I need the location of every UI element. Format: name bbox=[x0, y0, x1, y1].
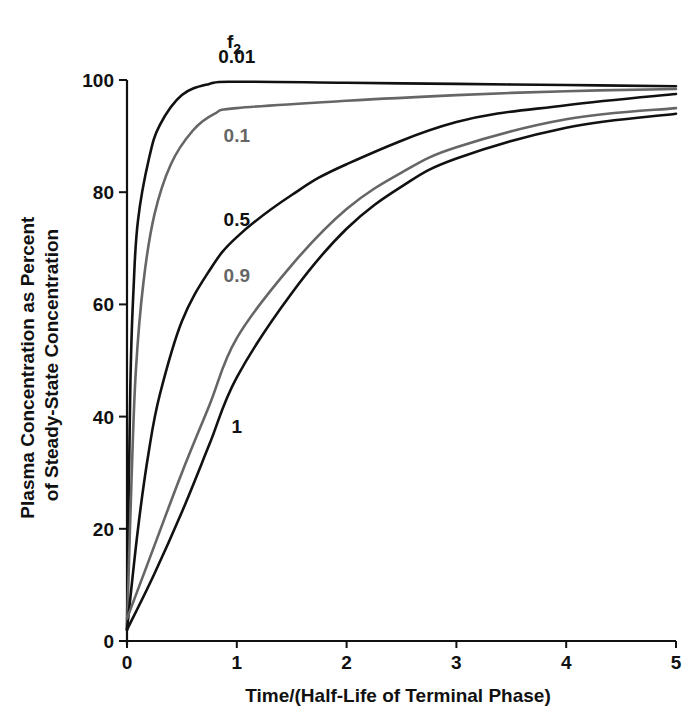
series-line-f2-1 bbox=[127, 114, 676, 630]
x-axis-title: Time/(Half-Life of Terminal Phase) bbox=[245, 685, 550, 706]
series-line-f2-0_01 bbox=[127, 82, 676, 630]
series-line-f2-0_1 bbox=[127, 89, 676, 630]
series-line-f2-0_5 bbox=[127, 94, 676, 630]
series-label-f2-0_1: 0.1 bbox=[224, 125, 251, 146]
x-tick-label: 3 bbox=[451, 652, 462, 673]
x-tick-label: 0 bbox=[122, 652, 133, 673]
x-tick-label: 1 bbox=[232, 652, 243, 673]
series-label-f2-0_5: 0.5 bbox=[224, 209, 251, 230]
x-tick-label: 2 bbox=[341, 652, 352, 673]
y-tick-label: 80 bbox=[93, 182, 114, 203]
y-tick-label: 40 bbox=[93, 407, 114, 428]
x-tick-label: 5 bbox=[671, 652, 682, 673]
y-axis-title-line-2: of Steady-State Concentration bbox=[41, 229, 62, 501]
chart: 020406080100012345 0.010.10.50.91 f2 Tim… bbox=[0, 0, 698, 720]
y-axis-title-line-1: Plasma Concentration as Percent bbox=[17, 216, 38, 519]
series-label-f2-1: 1 bbox=[232, 416, 243, 437]
series-line-f2-0_9 bbox=[127, 108, 676, 618]
y-tick-label: 20 bbox=[93, 519, 114, 540]
legend-title-subscript: 2 bbox=[233, 41, 241, 57]
series-label-f2-0_9: 0.9 bbox=[224, 265, 250, 286]
series-group bbox=[127, 82, 676, 630]
y-tick-label: 100 bbox=[82, 70, 114, 91]
y-axis-title: Plasma Concentration as Percent of Stead… bbox=[17, 211, 62, 518]
y-tick-label: 0 bbox=[103, 631, 114, 652]
y-tick-label: 60 bbox=[93, 294, 114, 315]
x-tick-label: 4 bbox=[561, 652, 572, 673]
